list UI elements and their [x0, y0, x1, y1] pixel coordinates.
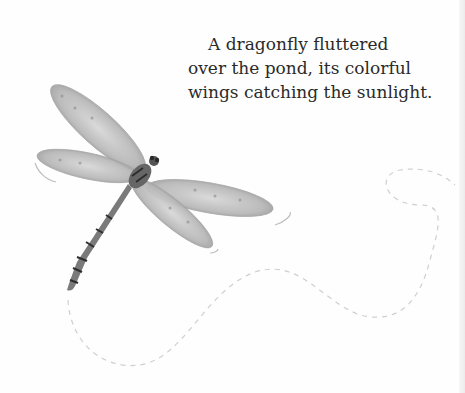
storybook-page: A dragonfly fluttered over the pond, its…	[0, 0, 465, 393]
dragonfly-illustration	[0, 0, 465, 393]
dragonfly-icon	[34, 74, 275, 291]
